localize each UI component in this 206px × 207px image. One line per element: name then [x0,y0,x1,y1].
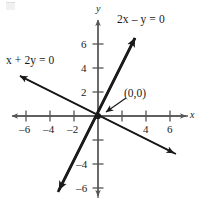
x-tick-label-4: 4 [143,124,149,135]
origin-callout-arrow [106,98,126,112]
y-tick-label--4: –4 [76,159,87,170]
x-axis-name: x [190,110,194,120]
x-tick-label--4: –4 [43,124,54,135]
y-tick-label-4: 4 [81,63,87,74]
x-tick-label-6: 6 [167,124,173,135]
x-tick-label--2: –2 [67,124,78,135]
y-tick-label-6: 6 [81,39,87,50]
origin-point-label: (0,0) [124,88,146,100]
coordinate-plane-figure: –6 –4 –2 4 6 6 4 2 –4 –6 x y 2x – y = 0 … [0,0,206,207]
origin-point [95,113,101,119]
graph-canvas [0,0,206,207]
equation-label-2x-minus-y: 2x – y = 0 [117,14,165,26]
y-axis-name: y [96,4,100,14]
y-tick-label--6: –6 [76,183,87,194]
equation-label-x-plus-2y: x + 2y = 0 [6,55,54,67]
x-tick-label--6: –6 [19,124,30,135]
y-tick-label-2: 2 [81,87,87,98]
